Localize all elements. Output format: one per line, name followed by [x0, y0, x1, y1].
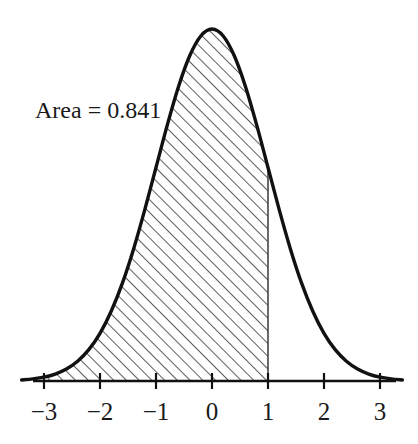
normal-curve-plot: −3−2−10123 Area = 0.841 — [0, 0, 418, 444]
x-axis-tick-label: 2 — [318, 398, 331, 425]
x-axis-tick-label: 0 — [206, 398, 219, 425]
x-axis-tick-label: −2 — [87, 398, 114, 425]
normal-distribution-figure: −3−2−10123 Area = 0.841 — [0, 0, 418, 444]
x-axis-tick-labels: −3−2−10123 — [31, 398, 387, 425]
x-axis-tick-label: 3 — [374, 398, 387, 425]
x-axis-tick-label: 1 — [262, 398, 275, 425]
x-axis-tick-label: −1 — [143, 398, 170, 425]
x-axis-tick-label: −3 — [31, 398, 58, 425]
area-annotation-label: Area = 0.841 — [35, 97, 161, 123]
